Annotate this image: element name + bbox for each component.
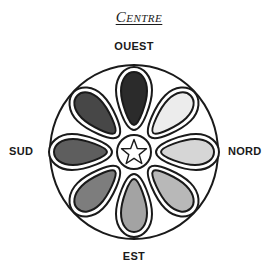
petal	[49, 134, 112, 170]
compass-flower-diagram	[0, 0, 278, 267]
petal	[116, 67, 152, 130]
petal	[156, 134, 219, 170]
petal	[116, 174, 152, 237]
